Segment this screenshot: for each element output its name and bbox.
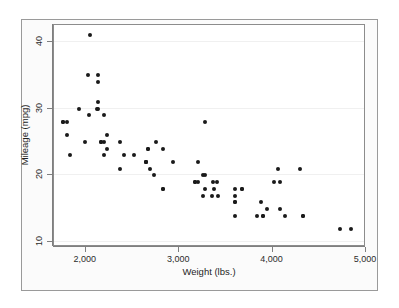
data-point bbox=[276, 167, 280, 171]
y-tick-label: 40 bbox=[33, 41, 45, 42]
data-point bbox=[95, 107, 99, 111]
data-point bbox=[152, 173, 156, 177]
data-point bbox=[122, 153, 126, 157]
data-point bbox=[283, 214, 287, 218]
data-point bbox=[87, 113, 91, 117]
data-point bbox=[338, 227, 342, 231]
y-axis-line bbox=[52, 24, 53, 246]
data-point bbox=[102, 153, 106, 157]
data-point bbox=[196, 160, 200, 164]
data-point bbox=[272, 180, 276, 184]
data-point bbox=[203, 187, 207, 191]
y-tick-mark bbox=[47, 108, 52, 109]
data-point bbox=[118, 167, 122, 171]
x-tick-label: 3,000 bbox=[167, 254, 190, 264]
x-axis-line bbox=[53, 246, 365, 247]
data-point bbox=[102, 140, 106, 144]
data-point bbox=[255, 214, 259, 218]
y-tick-label: 10 bbox=[33, 241, 45, 242]
data-point bbox=[233, 194, 237, 198]
y-tick-label-text: 40 bbox=[34, 36, 44, 46]
data-point bbox=[278, 207, 282, 211]
x-axis-title: Weight (lbs.) bbox=[182, 266, 235, 277]
data-point bbox=[349, 227, 353, 231]
x-tick-mark bbox=[85, 247, 86, 252]
x-tick-label: 2,000 bbox=[73, 254, 96, 264]
gridline-y bbox=[54, 241, 364, 242]
data-point bbox=[96, 100, 100, 104]
x-tick-mark bbox=[272, 247, 273, 252]
data-point bbox=[65, 120, 69, 124]
data-point bbox=[261, 214, 265, 218]
data-point bbox=[96, 80, 100, 84]
y-tick-mark bbox=[47, 174, 52, 175]
gridline-y bbox=[54, 108, 364, 109]
y-tick-mark bbox=[47, 41, 52, 42]
x-tick-mark bbox=[365, 247, 366, 252]
data-point bbox=[212, 187, 216, 191]
data-point bbox=[193, 180, 197, 184]
data-point bbox=[201, 194, 205, 198]
x-tick-label: 4,000 bbox=[260, 254, 283, 264]
data-point bbox=[146, 147, 150, 151]
plot-region bbox=[53, 24, 365, 246]
data-point bbox=[132, 153, 136, 157]
gridline-y bbox=[54, 174, 364, 175]
y-tick-label: 30 bbox=[33, 108, 45, 109]
data-point bbox=[105, 133, 109, 137]
data-point bbox=[154, 140, 158, 144]
data-point bbox=[233, 200, 237, 204]
data-point bbox=[118, 140, 122, 144]
data-point bbox=[233, 214, 237, 218]
data-point bbox=[215, 180, 219, 184]
data-point bbox=[83, 140, 87, 144]
data-point bbox=[216, 194, 220, 198]
data-point bbox=[301, 214, 305, 218]
data-point bbox=[161, 147, 165, 151]
data-point bbox=[148, 167, 152, 171]
data-point bbox=[203, 173, 207, 177]
data-point bbox=[96, 73, 100, 77]
data-point bbox=[105, 147, 109, 151]
data-point bbox=[171, 160, 175, 164]
data-point bbox=[86, 73, 90, 77]
data-point bbox=[240, 187, 244, 191]
y-tick-label-text: 10 bbox=[34, 236, 44, 246]
data-point bbox=[99, 140, 103, 144]
y-tick-label: 20 bbox=[33, 174, 45, 175]
x-tick-mark bbox=[178, 247, 179, 252]
data-point bbox=[88, 33, 92, 37]
data-point bbox=[211, 180, 215, 184]
y-tick-mark bbox=[47, 241, 52, 242]
y-tick-label-text: 20 bbox=[34, 169, 44, 179]
data-point bbox=[61, 120, 65, 124]
data-point bbox=[77, 107, 81, 111]
data-point bbox=[203, 120, 207, 124]
gridline-y bbox=[54, 41, 364, 42]
data-point bbox=[161, 187, 165, 191]
data-point bbox=[102, 113, 106, 117]
y-tick-label-text: 30 bbox=[34, 103, 44, 113]
x-tick-label: 5,000 bbox=[354, 254, 377, 264]
data-point bbox=[265, 207, 269, 211]
data-point bbox=[233, 187, 237, 191]
data-point bbox=[68, 153, 72, 157]
y-axis-title: Mileage (mpg) bbox=[19, 105, 30, 166]
data-point bbox=[210, 194, 214, 198]
data-point bbox=[65, 133, 69, 137]
data-point bbox=[298, 167, 302, 171]
scatter-plot-figure: 10203040 2,0003,0004,0005,000 Mileage (m… bbox=[0, 0, 399, 308]
data-point bbox=[259, 200, 263, 204]
data-point bbox=[278, 180, 282, 184]
data-point bbox=[144, 160, 148, 164]
